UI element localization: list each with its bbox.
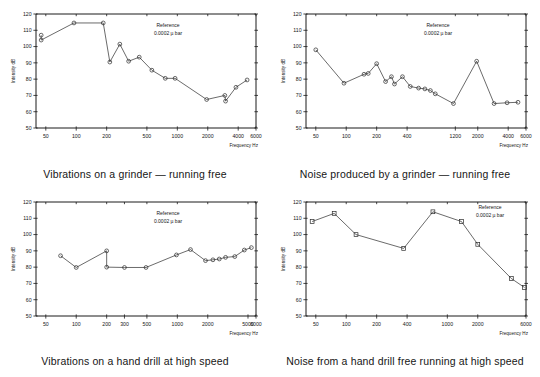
chart-panel-noise-grinder: 5060708090100110120501002004001200200040…	[270, 0, 540, 188]
svg-text:2000: 2000	[202, 321, 214, 327]
svg-text:60: 60	[26, 297, 32, 303]
chart-panel-noise-hand-drill: 5060708090100110120501002004001000200060…	[270, 188, 540, 377]
svg-text:100: 100	[342, 321, 351, 327]
svg-text:80: 80	[26, 76, 32, 82]
svg-text:100: 100	[72, 321, 81, 327]
svg-text:200: 200	[102, 321, 111, 327]
svg-text:4000: 4000	[232, 133, 244, 139]
svg-text:80: 80	[296, 76, 302, 82]
svg-text:200: 200	[102, 133, 111, 139]
svg-text:50: 50	[313, 321, 319, 327]
plot-area-noise-hand-drill: 5060708090100110120501002004001000200060…	[270, 188, 540, 348]
svg-text:80: 80	[296, 264, 302, 270]
svg-text:Frequency Hz: Frequency Hz	[229, 143, 258, 148]
plot-area-vibrations-hand-drill: 5060708090100110120501002003005001000200…	[0, 188, 270, 348]
chart-svg-0: 5060708090100110120501002005001000200040…	[0, 0, 270, 160]
svg-text:120: 120	[293, 11, 302, 17]
svg-text:100: 100	[23, 231, 32, 237]
svg-text:120: 120	[293, 199, 302, 205]
svg-text:70: 70	[26, 280, 32, 286]
svg-text:90: 90	[296, 60, 302, 66]
plot-area-noise-grinder: 5060708090100110120501002004001200200040…	[270, 0, 540, 160]
svg-text:6000: 6000	[520, 321, 532, 327]
chart-panel-vibrations-grinder: 5060708090100110120501002005001000200040…	[0, 0, 270, 188]
svg-text:70: 70	[296, 280, 302, 286]
svg-text:500: 500	[143, 133, 152, 139]
svg-text:100: 100	[72, 133, 81, 139]
svg-text:100: 100	[293, 231, 302, 237]
svg-text:110: 110	[293, 27, 301, 33]
svg-text:1000: 1000	[172, 133, 184, 139]
svg-text:1000: 1000	[442, 321, 454, 327]
svg-text:70: 70	[26, 92, 32, 98]
svg-text:60: 60	[26, 109, 32, 115]
svg-text:100: 100	[293, 43, 302, 49]
svg-text:60: 60	[296, 109, 302, 115]
svg-text:50: 50	[43, 133, 49, 139]
svg-text:90: 90	[296, 248, 302, 254]
chart-caption-vibrations-hand-drill: Vibrations on a hand drill at high speed	[0, 355, 270, 367]
svg-text:0.0002 µ bar: 0.0002 µ bar	[154, 218, 183, 224]
svg-text:100: 100	[342, 133, 351, 139]
svg-text:70: 70	[296, 92, 302, 98]
svg-text:6000: 6000	[520, 133, 532, 139]
svg-text:Reference: Reference	[156, 210, 179, 216]
svg-text:90: 90	[26, 60, 32, 66]
svg-text:2000: 2000	[472, 133, 484, 139]
svg-text:Intensity dB: Intensity dB	[11, 247, 16, 271]
svg-text:120: 120	[23, 199, 32, 205]
svg-text:Frequency Hz: Frequency Hz	[499, 143, 528, 148]
chart-caption-noise-hand-drill: Noise from a hand drill free running at …	[270, 355, 540, 367]
svg-text:50: 50	[313, 133, 319, 139]
svg-text:2000: 2000	[472, 321, 484, 327]
svg-text:200: 200	[372, 133, 381, 139]
svg-text:100: 100	[23, 43, 32, 49]
svg-text:0.0002 µ bar: 0.0002 µ bar	[476, 212, 505, 218]
chart-svg-2: 5060708090100110120501002003005001000200…	[0, 188, 270, 348]
svg-text:6000: 6000	[250, 133, 262, 139]
svg-text:Reference: Reference	[426, 22, 449, 28]
svg-text:120: 120	[23, 11, 32, 17]
svg-text:500: 500	[143, 321, 152, 327]
chart-panel-vibrations-hand-drill: 5060708090100110120501002003005001000200…	[0, 188, 270, 377]
svg-text:4000: 4000	[502, 133, 514, 139]
svg-text:Reference: Reference	[478, 204, 501, 210]
svg-text:300: 300	[120, 321, 129, 327]
svg-text:Intensity dB: Intensity dB	[281, 59, 286, 83]
svg-text:50: 50	[26, 313, 32, 319]
figure-grid: 5060708090100110120501002005001000200040…	[0, 0, 540, 377]
svg-text:Intensity dB: Intensity dB	[281, 247, 286, 271]
svg-text:50: 50	[26, 125, 32, 131]
chart-caption-vibrations-grinder: Vibrations on a grinder — running free	[0, 168, 270, 180]
svg-text:400: 400	[403, 321, 412, 327]
svg-text:200: 200	[372, 321, 381, 327]
svg-text:0.0002 µ bar: 0.0002 µ bar	[424, 30, 453, 36]
svg-text:110: 110	[23, 27, 31, 33]
svg-text:50: 50	[43, 321, 49, 327]
chart-svg-3: 5060708090100110120501002004001000200060…	[270, 188, 540, 348]
chart-svg-1: 5060708090100110120501002004001200200040…	[270, 0, 540, 160]
svg-text:50: 50	[296, 125, 302, 131]
svg-text:90: 90	[26, 248, 32, 254]
svg-text:1000: 1000	[172, 321, 184, 327]
svg-text:2000: 2000	[202, 133, 214, 139]
svg-text:50: 50	[296, 313, 302, 319]
svg-text:0.0002 µ bar: 0.0002 µ bar	[154, 30, 183, 36]
svg-text:1200: 1200	[450, 133, 462, 139]
svg-text:110: 110	[293, 215, 301, 221]
svg-text:Reference: Reference	[156, 22, 179, 28]
plot-area-vibrations-grinder: 5060708090100110120501002005001000200040…	[0, 0, 270, 160]
svg-text:Frequency Hz: Frequency Hz	[229, 331, 258, 336]
svg-text:110: 110	[23, 215, 31, 221]
svg-text:80: 80	[26, 264, 32, 270]
svg-text:Intensity dB: Intensity dB	[11, 59, 16, 83]
svg-text:Frequency Hz: Frequency Hz	[499, 331, 528, 336]
svg-text:400: 400	[403, 133, 412, 139]
svg-text:60: 60	[296, 297, 302, 303]
svg-text:6000: 6000	[250, 321, 262, 327]
chart-caption-noise-grinder: Noise produced by a grinder — running fr…	[270, 168, 540, 180]
